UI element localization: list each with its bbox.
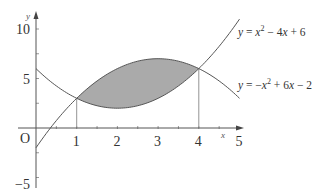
y-axis-label: y	[25, 11, 30, 21]
equation-label-upper: y = x2 − 4x + 6	[237, 24, 306, 39]
x-axis-ticks: 12345	[56, 126, 242, 149]
x-axis-label: x	[220, 130, 225, 140]
y-tick-label: 5	[23, 72, 30, 87]
x-tick-label: 5	[236, 134, 243, 149]
equation-label-lower: y = −x2 + 6x − 2	[237, 77, 312, 92]
x-tick-label: 4	[195, 134, 202, 149]
y-tick-label: 10	[16, 22, 30, 37]
x-tick-label: 2	[113, 134, 120, 149]
x-tick-label: 3	[154, 134, 161, 149]
x-axis-arrow-icon	[236, 126, 244, 131]
y-axis-arrow-icon	[34, 11, 39, 19]
origin-label: O	[20, 131, 30, 146]
chart: 12345 105−5 y x O y = x2 − 4x + 6 y = −x…	[0, 0, 325, 191]
x-tick-label: 1	[73, 134, 80, 149]
shaded-region	[77, 59, 199, 108]
y-tick-label: −5	[15, 177, 30, 191]
y-axis-ticks: 105−5	[15, 22, 39, 191]
